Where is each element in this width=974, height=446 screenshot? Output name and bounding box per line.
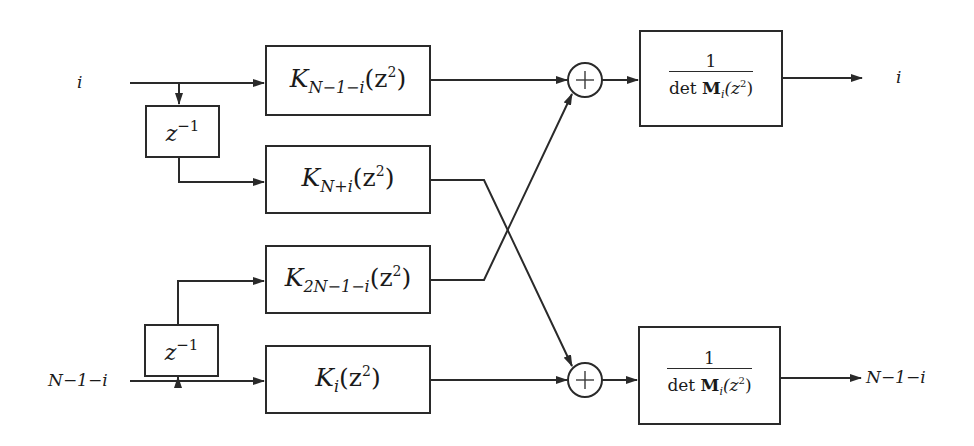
- filter-label: K2N−1−i(z2): [285, 263, 412, 296]
- delay-label: z−1: [165, 336, 199, 365]
- filter-block-k-i: Ki(z2): [265, 345, 431, 414]
- filter-label: KN−1−i(z2): [290, 64, 406, 97]
- normalizer-fraction: 1 det Mi(z2): [667, 349, 751, 402]
- input-label-top: i: [77, 72, 82, 92]
- wire-delay-top-to-k2: [179, 157, 264, 182]
- filter-label: Ki(z2): [315, 363, 380, 396]
- wiring: [0, 0, 974, 446]
- wire-delay-bottom-to-k3: [178, 281, 264, 324]
- delay-block-bottom: z−1: [144, 324, 219, 377]
- wire-k2-to-sum-bottom: [430, 180, 572, 366]
- normalizer-block-bottom: 1 det Mi(z2): [638, 326, 781, 425]
- input-label-bottom: N−1−i: [48, 370, 108, 390]
- wire-k3-to-sum-top: [430, 94, 572, 280]
- filter-block-k-2n-1-i: K2N−1−i(z2): [265, 245, 431, 314]
- delay-block-top: z−1: [145, 105, 220, 158]
- filter-block-k-n-1-i: KN−1−i(z2): [265, 45, 431, 116]
- delay-label: z−1: [166, 117, 200, 146]
- output-label-top: i: [896, 67, 901, 87]
- filter-block-k-n-plus-i: KN+i(z2): [265, 145, 431, 214]
- output-label-bottom: N−1−i: [866, 367, 926, 387]
- filter-label: KN+i(z2): [302, 163, 395, 196]
- normalizer-block-top: 1 det Mi(z2): [639, 30, 783, 127]
- normalizer-fraction: 1 det Mi(z2): [669, 52, 753, 105]
